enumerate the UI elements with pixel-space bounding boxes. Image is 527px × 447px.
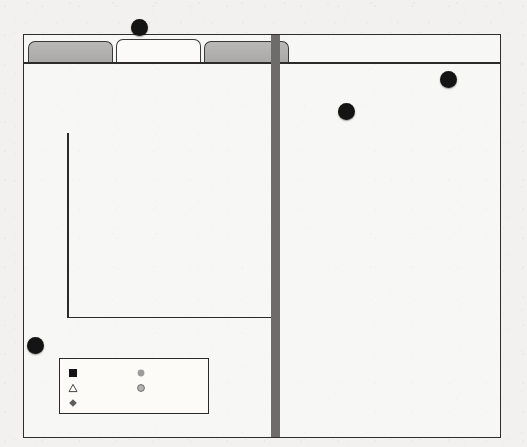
answer-column-headers bbox=[295, 107, 326, 118]
filled-diamond-icon bbox=[68, 398, 78, 408]
chart-legend bbox=[59, 358, 209, 414]
filled-circle-icon bbox=[136, 368, 146, 378]
chart-series-svg bbox=[67, 133, 275, 318]
open-triangle-icon bbox=[68, 383, 78, 393]
legend-item-united-states bbox=[68, 365, 132, 380]
callout-badge-1 bbox=[131, 19, 148, 36]
tab-graph-1[interactable] bbox=[116, 39, 201, 64]
tab-text-1[interactable] bbox=[28, 41, 113, 64]
callout-badge-4 bbox=[338, 103, 355, 120]
legend-item-india bbox=[136, 380, 200, 395]
callout-badge-3 bbox=[440, 71, 457, 88]
panel-divider bbox=[271, 35, 280, 437]
chart-plot-area bbox=[67, 133, 275, 318]
legend-item-china bbox=[136, 365, 200, 380]
filled-square-icon bbox=[68, 368, 78, 378]
legend-item-norway bbox=[68, 395, 132, 410]
ringed-circle-icon bbox=[136, 383, 146, 393]
callout-badge-2 bbox=[27, 337, 44, 354]
legend-item-canada bbox=[68, 380, 132, 395]
tab-bar bbox=[28, 39, 289, 64]
tab-underline bbox=[24, 62, 500, 64]
